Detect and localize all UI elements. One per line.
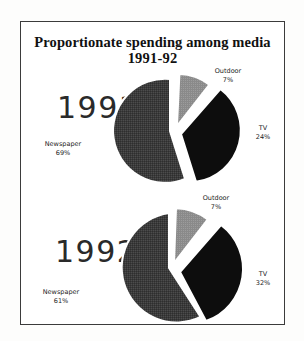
slice-label-outdoor-1992: Outdoor 7% (189, 194, 243, 213)
pie-slice-newspaper-1991 (113, 79, 185, 183)
slice-label-newspaper-1991: Newspaper 69% (29, 140, 97, 159)
slice-label-newspaper-1992-name: Newspaper (27, 288, 95, 297)
slice-label-tv-1992: TV 32% (243, 270, 283, 289)
slice-label-outdoor-1992-value: 7% (189, 203, 243, 212)
slice-label-tv-1992-value: 32% (243, 279, 283, 288)
slice-label-newspaper-1992-value: 61% (27, 297, 95, 306)
chart-title-line-1: Proportionate spending among media (21, 34, 284, 50)
pie-chart-1992 (113, 208, 229, 324)
chart-frame: Proportionate spending among media 1991-… (20, 21, 285, 325)
pie-panel-1992: 1992 (21, 192, 286, 324)
pie-chart-1991 (117, 76, 227, 186)
slice-label-outdoor-1991-value: 7% (201, 76, 255, 85)
slice-label-newspaper-1991-value: 69% (29, 149, 97, 158)
slice-label-tv-1991-value: 24% (243, 133, 283, 142)
figure-canvas: Proportionate spending among media 1991-… (0, 0, 304, 341)
slice-label-outdoor-1991: Outdoor 7% (201, 67, 255, 86)
slice-label-tv-1991-name: TV (243, 124, 283, 133)
chart-title: Proportionate spending among media 1991-… (21, 34, 284, 66)
slice-label-tv-1991: TV 24% (243, 124, 283, 143)
chart-title-line-2: 1991-92 (21, 50, 284, 66)
pie-panel-1991: 1991 (21, 68, 286, 192)
slice-label-outdoor-1992-name: Outdoor (189, 194, 243, 203)
slice-label-tv-1992-name: TV (243, 270, 283, 279)
slice-label-newspaper-1991-name: Newspaper (29, 140, 97, 149)
slice-label-outdoor-1991-name: Outdoor (201, 67, 255, 76)
slice-label-newspaper-1992: Newspaper 61% (27, 288, 95, 307)
